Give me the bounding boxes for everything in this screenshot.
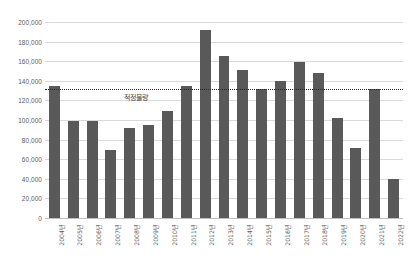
bar	[105, 150, 116, 218]
y-axis-tick-label: 60,000	[0, 156, 42, 163]
gridline	[45, 218, 403, 219]
x-axis-tick-label: 2009년	[151, 224, 160, 246]
bar	[275, 81, 286, 218]
bar	[162, 111, 173, 218]
bar-chart: 적정물량 020,00040,00060,00080,000100,000120…	[0, 0, 414, 280]
y-axis-tick-label: 160,000	[0, 58, 42, 65]
bars-container	[45, 22, 403, 218]
y-axis-tick-label: 200,000	[0, 19, 42, 26]
bar	[332, 118, 343, 218]
x-axis-tick-label: 2007년	[113, 224, 122, 246]
x-axis-tick-label: 2013년	[226, 224, 235, 246]
y-axis-tick-label: 20,000	[0, 195, 42, 202]
y-axis-tick-label: 80,000	[0, 136, 42, 143]
y-axis-tick-label: 140,000	[0, 77, 42, 84]
bar	[294, 62, 305, 218]
bar	[313, 73, 324, 218]
x-axis-tick-label: 2022년	[396, 224, 405, 246]
x-axis-tick-label: 2006년	[94, 224, 103, 246]
reference-line	[45, 89, 403, 90]
x-axis-tick-label: 2018년	[320, 224, 329, 246]
x-axis-tick-label: 2004년	[57, 224, 66, 246]
bar	[181, 86, 192, 218]
y-axis-tick-label: 0	[0, 215, 42, 222]
bar	[350, 148, 361, 218]
y-axis-tick-label: 100,000	[0, 117, 42, 124]
bar	[256, 89, 267, 218]
y-axis-tick-label: 40,000	[0, 175, 42, 182]
x-axis-tick-label: 2008년	[132, 224, 141, 246]
x-axis-tick-label: 2020년	[358, 224, 367, 246]
x-axis-tick-label: 2010년	[170, 224, 179, 246]
x-axis-tick-label: 2005년	[75, 224, 84, 246]
y-axis-tick-label: 120,000	[0, 97, 42, 104]
bar	[124, 128, 135, 218]
bar	[237, 70, 248, 218]
x-axis-tick-label: 2019년	[339, 224, 348, 246]
bar	[143, 125, 154, 218]
bar	[68, 121, 79, 218]
x-axis-tick-label: 2017년	[302, 224, 311, 246]
y-axis-tick-label: 180,000	[0, 38, 42, 45]
reference-line-label: 적정물량	[124, 92, 148, 102]
bar	[200, 30, 211, 218]
plot-area: 적정물량	[45, 22, 403, 218]
x-axis-tick-label: 2021년	[377, 224, 386, 246]
x-axis-tick-label: 2011년	[189, 224, 198, 246]
x-axis-tick-label: 2015년	[264, 224, 273, 246]
x-axis-tick-label: 2014년	[245, 224, 254, 246]
x-axis-tick-label: 2016년	[283, 224, 292, 246]
bar	[87, 121, 98, 218]
x-axis-labels: 2004년2005년2006년2007년2008년2009년2010년2011년…	[45, 220, 403, 278]
bar	[219, 56, 230, 218]
x-axis-tick-label: 2012년	[207, 224, 216, 246]
bar	[49, 86, 60, 218]
bar	[369, 89, 380, 218]
bar	[388, 179, 399, 218]
